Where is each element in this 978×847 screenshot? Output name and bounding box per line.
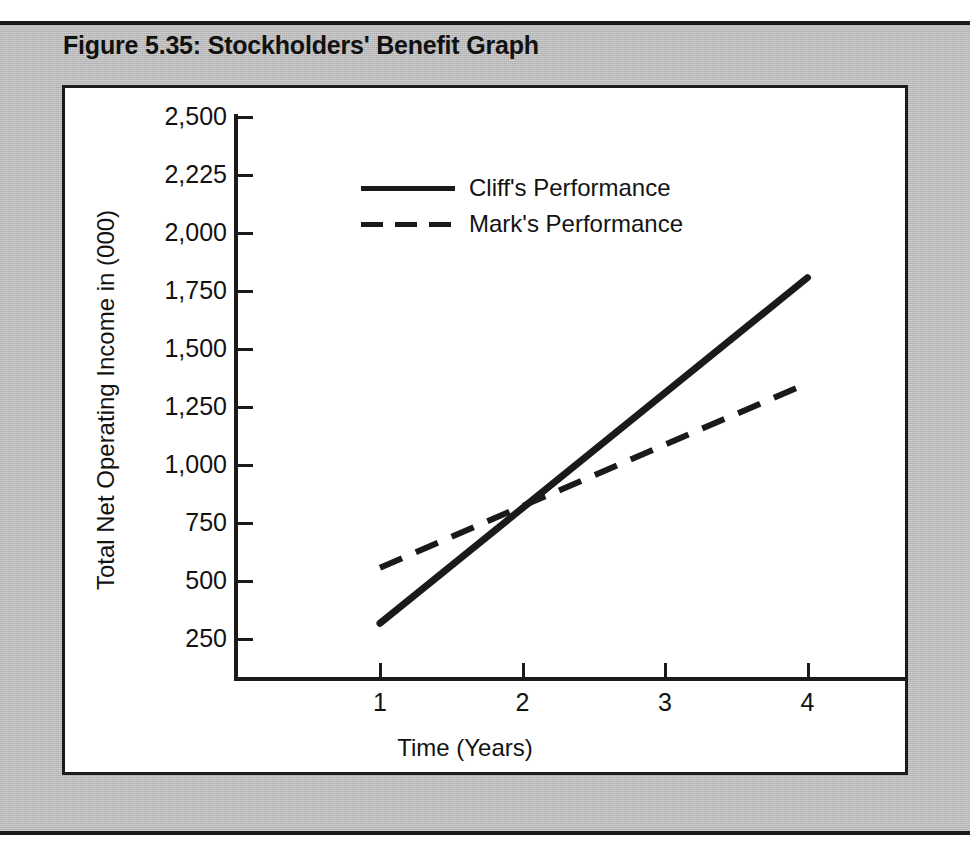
x-axis-title: Time (Years) xyxy=(315,734,615,762)
y-tick-mark xyxy=(238,116,253,119)
legend-label-marks-performance: Mark's Performance xyxy=(469,210,683,238)
x-tick-mark xyxy=(664,663,667,678)
series-line-marks-performance xyxy=(380,383,808,567)
legend-label-cliffs-performance: Cliff's Performance xyxy=(469,174,671,202)
figure-title: Figure 5.35: Stockholders' Benefit Graph xyxy=(63,31,883,60)
y-tick-mark xyxy=(238,348,253,351)
series-line-cliffs-performance xyxy=(380,278,808,624)
x-tick-mark xyxy=(522,663,525,678)
legend-entry-marks-performance: Mark's Performance xyxy=(361,206,683,242)
y-tick-label: 250 xyxy=(131,626,227,651)
y-tick-label: 1,250 xyxy=(131,394,227,419)
y-tick-label: 2,000 xyxy=(131,220,227,245)
y-tick-mark xyxy=(238,232,253,235)
y-tick-label: 750 xyxy=(131,510,227,535)
y-tick-label: 1,500 xyxy=(131,336,227,361)
solid-line-icon xyxy=(361,182,455,194)
y-tick-label: 500 xyxy=(131,568,227,593)
y-tick-mark xyxy=(238,464,253,467)
x-tick-label: 1 xyxy=(350,688,410,717)
figure-page: Figure 5.35: Stockholders' Benefit Graph… xyxy=(0,0,978,847)
x-tick-mark xyxy=(379,663,382,678)
y-tick-mark xyxy=(238,638,253,641)
x-tick-label: 3 xyxy=(635,688,695,717)
x-tick-mark xyxy=(807,663,810,678)
chart-panel: 2,5002,2252,0001,7501,5001,2501,00075050… xyxy=(62,85,908,775)
chart-legend: Cliff's Performance Mark's Performance xyxy=(361,170,683,242)
y-tick-label: 1,750 xyxy=(131,278,227,303)
x-tick-label: 2 xyxy=(493,688,553,717)
x-tick-label: 4 xyxy=(778,688,838,717)
y-tick-mark xyxy=(238,522,253,525)
y-tick-mark xyxy=(238,406,253,409)
dashed-line-icon xyxy=(361,218,455,230)
y-axis-line xyxy=(234,114,238,681)
legend-entry-cliffs-performance: Cliff's Performance xyxy=(361,170,683,206)
y-tick-mark xyxy=(238,290,253,293)
y-tick-mark xyxy=(238,580,253,583)
y-tick-label: 1,000 xyxy=(131,452,227,477)
y-axis-title: Total Net Operating Income in (000) xyxy=(92,140,120,660)
y-tick-label: 2,225 xyxy=(131,162,227,187)
y-tick-mark xyxy=(238,174,253,177)
y-tick-label: 2,500 xyxy=(131,104,227,129)
